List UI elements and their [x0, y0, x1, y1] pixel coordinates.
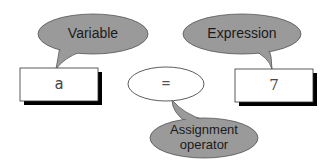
expression-callout-shape	[183, 14, 301, 69]
assignment-statement-diagram: Variable Expression Assignment operator …	[0, 0, 334, 160]
operator-callout-label-line2: operator	[160, 138, 248, 152]
expression-value: 7	[235, 76, 313, 94]
variable-callout-shape	[38, 14, 148, 69]
variable-callout-label: Variable	[58, 25, 128, 41]
expression-callout-label: Expression	[202, 25, 282, 41]
operator-callout-label-line1: Assignment	[160, 123, 248, 137]
variable-value: a	[20, 75, 98, 93]
operator-value: =	[128, 75, 204, 91]
